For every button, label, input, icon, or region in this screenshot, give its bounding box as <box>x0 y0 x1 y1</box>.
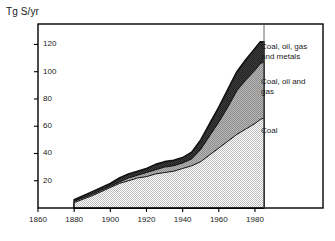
x-tick-label: 1940 <box>174 215 192 224</box>
x-tick-label: 1860 <box>29 215 47 224</box>
y-tick-label: 80 <box>43 94 52 103</box>
y-axis-title: Tg S/yr <box>6 6 39 17</box>
y-tick-label: 20 <box>43 176 52 185</box>
y-tick-label: 60 <box>43 121 52 130</box>
x-tick-label: 1980 <box>246 215 264 224</box>
x-tick-label: 1960 <box>210 215 228 224</box>
stacked-area-group <box>74 42 264 208</box>
chart-figure: Tg S/yr 12010080604020 18601880190019201… <box>0 0 335 241</box>
y-tick-label: 100 <box>43 67 56 76</box>
x-tick-label: 1900 <box>101 215 119 224</box>
legend-entry-label: Coal <box>261 126 277 136</box>
y-tick-label: 120 <box>43 39 56 48</box>
legend-entry-label: Coal, oil and gas <box>261 77 305 97</box>
y-tick-label: 40 <box>43 148 52 157</box>
x-tick-label: 1920 <box>138 215 156 224</box>
x-tick-label: 1880 <box>65 215 83 224</box>
legend-entry-label: Coal, oil, gas and metals <box>261 42 307 62</box>
